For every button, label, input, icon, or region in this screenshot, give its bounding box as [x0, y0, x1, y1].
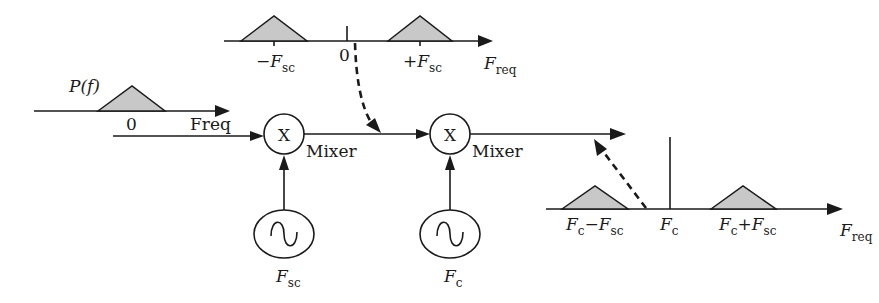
dashed-pointer-intermediate — [355, 43, 381, 133]
mixer2-label: Mixer — [472, 141, 523, 161]
input-zero-label: 0 — [126, 114, 137, 134]
input-axis-label: Freq — [190, 114, 231, 134]
neg-fsc-label: −Fsc — [256, 51, 295, 75]
mixer1-symbol: X — [278, 125, 291, 145]
dashed-pointer-output-arrowhead-icon — [594, 139, 607, 156]
dashed-pointer-arrowhead-icon — [366, 118, 381, 133]
dashed-pointer-line — [355, 43, 372, 124]
intermediate-axis-arrowhead-icon — [478, 35, 493, 47]
oscillator-fc-label: Fc — [443, 266, 463, 290]
mixer1-label: Mixer — [306, 141, 357, 161]
upper-sideband-label: Fc+Fsc — [718, 214, 777, 238]
output-lower-triangle — [562, 186, 628, 209]
carrier-label: Fc — [659, 214, 679, 238]
output-axis-label: Freq — [839, 220, 873, 244]
frequency-translation-diagram: P(f) 0 Freq X Mixer X Mixer Fsc Fc — [0, 0, 879, 303]
input-function-label: P(f) — [68, 76, 100, 96]
oscillator-fsc-arrowhead-icon — [279, 155, 289, 170]
intermediate-lower-triangle — [241, 16, 307, 41]
output-signal-arrowhead-icon — [610, 128, 626, 140]
output-upper-triangle — [711, 186, 776, 209]
intermediate-upper-triangle — [388, 16, 452, 41]
oscillator-fsc-label: Fsc — [275, 266, 301, 290]
pos-fsc-label: +Fsc — [403, 51, 442, 75]
input-signal-arrowhead-icon — [250, 131, 264, 141]
intermediate-axis-label: Freq — [483, 53, 517, 77]
oscillator-fc-arrowhead-icon — [445, 155, 455, 170]
mixer-link-arrowhead-icon — [416, 129, 430, 139]
lower-sideband-label: Fc−Fsc — [565, 214, 624, 238]
intermediate-spectrum: −Fsc 0 +Fsc Freq — [224, 16, 517, 77]
oscillator-fsc: Fsc — [254, 155, 314, 290]
input-spectrum-triangle — [98, 86, 165, 111]
intermediate-zero-label: 0 — [339, 45, 350, 65]
output-axis-arrowhead-icon — [827, 203, 843, 215]
output-spectrum: Fc−Fsc Fc Fc+Fsc Freq — [546, 137, 873, 244]
input-spectrum: P(f) 0 Freq — [34, 76, 231, 134]
oscillator-fc: Fc — [420, 155, 480, 290]
mixer2-symbol: X — [444, 125, 457, 145]
